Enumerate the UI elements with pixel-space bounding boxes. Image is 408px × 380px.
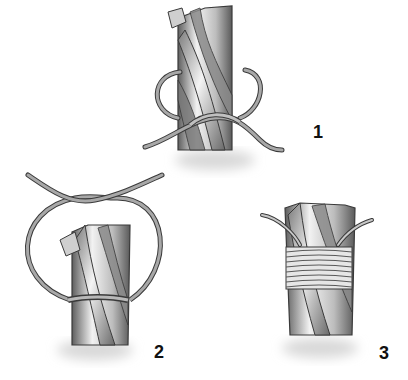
step-2-label: 2 — [154, 342, 164, 363]
step-2-illustration — [27, 175, 162, 360]
diagram-illustration — [0, 0, 408, 380]
whipping-diagram: 1 2 3 — [0, 0, 408, 380]
step-3-illustration — [262, 203, 372, 358]
step-3-label: 3 — [379, 343, 389, 364]
step-1-illustration — [145, 6, 282, 170]
step-1-label: 1 — [313, 122, 323, 143]
